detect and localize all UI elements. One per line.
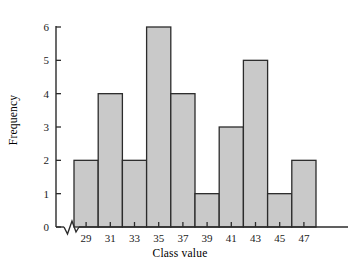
x-tick-label: 29 bbox=[81, 232, 93, 244]
x-tick-label: 33 bbox=[129, 232, 141, 244]
y-tick-label: 4 bbox=[44, 88, 50, 100]
x-tick-label: 31 bbox=[105, 232, 116, 244]
y-tick-label: 2 bbox=[44, 154, 50, 166]
histogram-bar bbox=[171, 94, 195, 227]
histogram-bar bbox=[292, 160, 316, 227]
histogram-bar bbox=[98, 94, 122, 227]
x-tick-label: 35 bbox=[153, 232, 165, 244]
histogram-bar bbox=[122, 160, 146, 227]
y-tick-label: 6 bbox=[44, 21, 50, 33]
histogram-chart: 0123456 29313335373941434547 Frequency C… bbox=[0, 0, 360, 273]
x-tick-label: 43 bbox=[250, 232, 262, 244]
y-tick-label: 5 bbox=[44, 54, 50, 66]
y-tick-group: 0123456 bbox=[44, 21, 62, 233]
x-tick-label: 47 bbox=[298, 232, 310, 244]
y-tick-label: 1 bbox=[44, 188, 50, 200]
bars-group bbox=[74, 27, 316, 227]
x-tick-label: 37 bbox=[177, 232, 189, 244]
histogram-bar bbox=[147, 27, 171, 227]
histogram-bar bbox=[219, 127, 243, 227]
y-tick-label: 0 bbox=[44, 221, 50, 233]
y-tick-label: 3 bbox=[44, 121, 50, 133]
x-tick-label: 45 bbox=[274, 232, 286, 244]
histogram-bar bbox=[74, 160, 98, 227]
histogram-bar bbox=[243, 60, 267, 227]
x-tick-label: 41 bbox=[226, 232, 237, 244]
x-tick-label: 39 bbox=[202, 232, 214, 244]
x-axis-label-text: Class value bbox=[0, 247, 360, 259]
chart-canvas: 0123456 29313335373941434547 bbox=[0, 0, 360, 273]
